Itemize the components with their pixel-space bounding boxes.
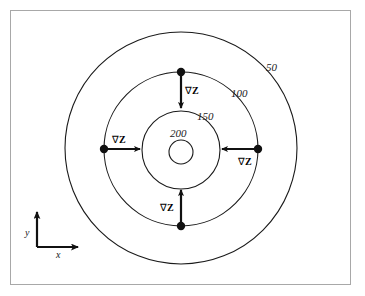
gradient-label-south: ∇Z: [160, 203, 174, 213]
nabla-icon: ∇: [185, 85, 192, 96]
y-axis-label: y: [25, 228, 29, 238]
gradient-label-north: ∇Z: [185, 86, 199, 96]
gradient-point-north: [177, 68, 185, 76]
gradient-vector-east: [222, 145, 262, 153]
contour-circle-200: [169, 140, 193, 164]
gradient-point-east: [254, 145, 262, 153]
gradient-point-west: [100, 145, 108, 153]
gradient-vector-south: [177, 190, 185, 230]
gradient-label-west: ∇Z: [112, 135, 126, 145]
contour-label-150: 150: [197, 111, 214, 122]
contour-label-50: 50: [266, 62, 277, 73]
contour-circle-150: [142, 111, 220, 189]
figure-drawing-canvas: [0, 0, 365, 296]
gradient-label-north-z: Z: [192, 85, 199, 96]
nabla-icon: ∇: [238, 156, 245, 167]
contour-map-figure: 50 100 150 200 ∇Z ∇Z ∇Z ∇Z y x: [0, 0, 365, 296]
axis-indicator: [37, 212, 78, 247]
gradient-label-west-z: Z: [119, 134, 126, 145]
contour-label-100: 100: [231, 88, 248, 99]
gradient-vector-west: [100, 145, 140, 153]
nabla-icon: ∇: [160, 202, 167, 213]
gradient-label-east-z: Z: [245, 156, 252, 167]
contour-label-200: 200: [170, 128, 187, 139]
gradient-point-south: [177, 222, 185, 230]
x-axis-label: x: [56, 250, 60, 260]
gradient-vector-north: [177, 68, 185, 108]
nabla-icon: ∇: [112, 134, 119, 145]
gradient-label-south-z: Z: [167, 202, 174, 213]
gradient-label-east: ∇Z: [238, 157, 252, 167]
